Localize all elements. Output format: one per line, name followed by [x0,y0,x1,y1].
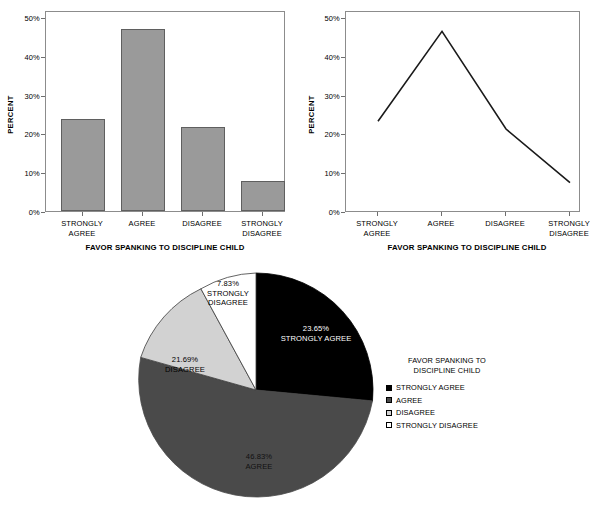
line-chart-ytick-40: 40% [318,52,340,61]
line-chart-xtickmark-1 [377,212,378,216]
legend-label-strongly-disagree: STRONGLY DISAGREE [396,421,478,430]
line-chart-ytickmark-0 [341,212,345,213]
bar-chart-ytick-50: 50% [18,14,40,23]
bar-chart-xtick-strongly-disagree: STRONGLY DISAGREE [227,219,297,238]
pie-label-strongly-disagree: 7.83% STRONGLY DISAGREE [193,279,263,308]
bar-chart-ytickmark-0 [41,212,45,213]
legend-title: FAVOR SPANKING TO DISCIPLINE CHILD [386,356,508,376]
pie-label-agree: 46.83% AGREE [219,452,299,471]
bar-chart-ytick-30: 30% [18,91,40,100]
line-chart-y-axis-title: PERCENT [307,94,316,136]
pie-chart-graphic [137,272,377,512]
legend-swatch-strongly-agree [386,385,392,391]
line-chart-plot-area [345,11,580,212]
line-chart-ytick-50: 50% [318,14,340,23]
legend-item-strongly-agree[interactable]: STRONGLY AGREE [386,383,566,392]
legend-item-agree[interactable]: AGREE [386,396,566,405]
line-chart-xtick-disagree: DISAGREE [470,219,540,229]
bar-chart-panel: PERCENT 50% 40% 30% 20% 10% 0% STRONGLY … [0,0,295,260]
bar-chart-ytick-40: 40% [18,52,40,61]
bar-strongly-agree [61,119,105,211]
legend-label-disagree: DISAGREE [396,408,435,417]
line-chart-x-axis-title: FAVOR SPANKING TO DISCIPLINE CHILD [388,243,547,252]
pie-chart-panel: 23.65% STRONGLY AGREE 46.83% AGREE 21.69… [137,272,377,512]
pie-label-disagree: 21.69% DISAGREE [145,355,225,374]
line-chart-xtick-strongly-agree: STRONGLY AGREE [342,219,412,238]
legend-swatch-agree [386,397,392,403]
line-chart-series [346,12,581,213]
bar-disagree [181,127,225,211]
line-chart-panel: PERCENT 50% 40% 30% 20% 10% 0% STRONGLY … [295,0,590,260]
pie-label-strongly-agree: 23.65% STRONGLY AGREE [266,324,366,343]
bar-agree [121,29,165,211]
line-chart-ytick-20: 20% [318,130,340,139]
bar-chart-ytick-20: 20% [18,130,40,139]
bar-chart-xtickmark-2 [142,212,143,216]
legend-label-strongly-agree: STRONGLY AGREE [396,383,465,392]
legend-item-disagree[interactable]: DISAGREE [386,408,566,417]
bar-chart-plot-area [45,11,285,212]
legend-item-strongly-disagree[interactable]: STRONGLY DISAGREE [386,421,566,430]
line-chart-ytick-30: 30% [318,91,340,100]
bar-strongly-disagree [241,181,285,211]
pie-chart-legend: FAVOR SPANKING TO DISCIPLINE CHILD STRON… [386,356,566,433]
bar-chart-x-axis-title: FAVOR SPANKING TO DISCIPLINE CHILD [86,243,245,252]
line-chart-ytick-0: 0% [318,208,340,217]
bar-chart-xtickmark-3 [202,212,203,216]
bar-chart-ytick-10: 10% [18,169,40,178]
line-chart-xtickmark-2 [441,212,442,216]
line-chart-xtick-agree: AGREE [406,219,476,229]
bar-chart-ytick-0: 0% [18,208,40,217]
bar-chart-y-axis-title: PERCENT [6,94,15,136]
legend-swatch-disagree [386,410,392,416]
bar-chart-xtickmark-4 [262,212,263,216]
line-chart-ytick-10: 10% [318,169,340,178]
legend-label-agree: AGREE [396,396,422,405]
line-chart-xtickmark-4 [569,212,570,216]
line-chart-xtickmark-3 [505,212,506,216]
bar-chart-xtickmark-1 [82,212,83,216]
line-chart-xtick-strongly-disagree: STRONGLY DISAGREE [534,219,590,238]
legend-swatch-strongly-disagree [386,422,392,428]
